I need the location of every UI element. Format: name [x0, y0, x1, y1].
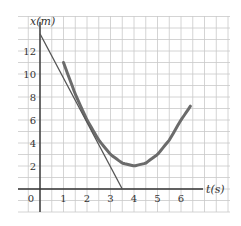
x-tick-label: 3 [107, 193, 113, 204]
x-tick-label: 2 [84, 193, 90, 204]
y-tick-label: 4 [30, 138, 36, 149]
x-tick-label: 5 [154, 193, 160, 204]
y-tick-label: 10 [23, 69, 36, 80]
x-axis-label: t(s) [206, 183, 225, 196]
position-time-graph: 012345624681012 x(m) t(s) [0, 0, 241, 226]
y-tick-label: 6 [30, 115, 36, 126]
x-tick-label: 6 [178, 193, 184, 204]
x-tick-label: 4 [131, 193, 137, 204]
y-tick-label: 2 [30, 161, 36, 172]
grid-lines [18, 16, 230, 212]
y-axis-label: x(m) [30, 15, 55, 28]
x-tick-label: 1 [60, 193, 66, 204]
y-tick-label: 12 [23, 46, 36, 57]
x-tick-label: 0 [28, 193, 34, 204]
axis-labels: x(m) t(s) [30, 15, 225, 196]
y-tick-label: 8 [30, 92, 36, 103]
